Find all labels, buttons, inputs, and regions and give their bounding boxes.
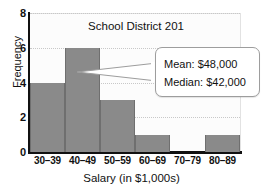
bar	[205, 135, 240, 152]
bar	[135, 135, 170, 152]
callout-box: Mean: $48,000 Median: $42,000	[155, 47, 260, 97]
y-axis-tick-label: 0	[2, 147, 26, 157]
callout-pointer	[77, 61, 157, 83]
y-axis-title: Frequency	[11, 14, 23, 110]
callout-text: Mean: $48,000 Median: $42,000	[164, 55, 259, 91]
bar	[30, 83, 65, 153]
summary-callout: Mean: $48,000 Median: $42,000	[155, 47, 260, 97]
chart-title: School District 201	[56, 20, 216, 33]
x-axis-title: Salary (in $1,000s)	[0, 172, 263, 185]
histogram-figure: 02468 Frequency School District 201 30–3…	[0, 0, 263, 194]
x-axis-tick-labels: 30–3940–4950–5960–6970–7980–89	[30, 155, 242, 169]
y-axis-tick-label: 2	[2, 112, 26, 122]
x-axis-tick-label: 80–89	[201, 155, 244, 167]
callout-median-line: Median: $42,000	[164, 73, 259, 91]
bar	[100, 100, 135, 152]
callout-mean-line: Mean: $48,000	[164, 55, 259, 73]
